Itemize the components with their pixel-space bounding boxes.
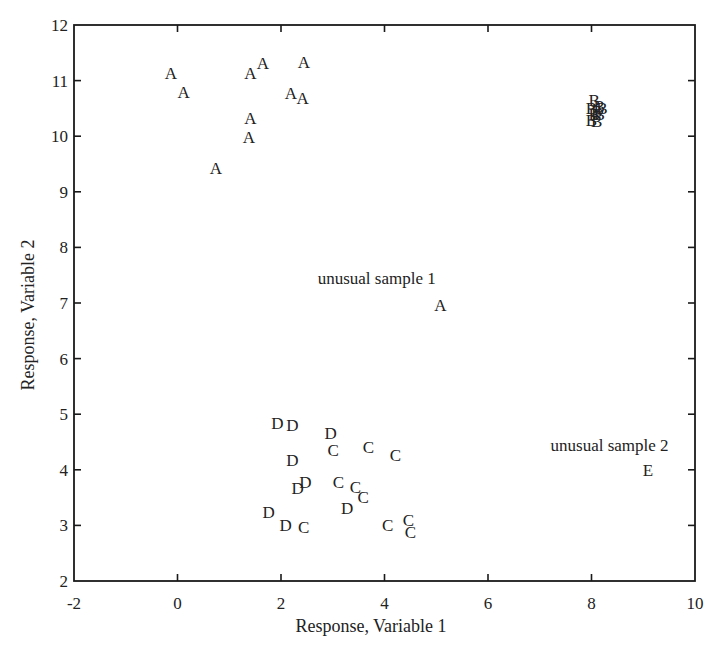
- chart-background: [0, 0, 714, 653]
- data-point-d: D: [271, 414, 283, 433]
- data-point-c: C: [298, 518, 309, 537]
- data-point-a: A: [257, 54, 270, 73]
- data-point-c: C: [358, 488, 369, 507]
- x-tick-label: 4: [380, 594, 389, 613]
- data-point-a: A: [434, 296, 447, 315]
- data-point-a: A: [298, 53, 311, 72]
- y-tick-label: 2: [60, 572, 69, 591]
- data-point-c: C: [405, 523, 416, 542]
- y-tick-label: 7: [60, 294, 69, 313]
- data-point-b: B: [591, 112, 602, 131]
- x-tick-label: 10: [687, 594, 704, 613]
- data-point-d: D: [286, 416, 298, 435]
- x-tick-label: 2: [277, 594, 286, 613]
- data-point-c: C: [382, 516, 393, 535]
- y-tick-label: 5: [60, 405, 69, 424]
- data-point-d: D: [286, 451, 298, 470]
- x-tick-label: 8: [587, 594, 596, 613]
- y-tick-label: 3: [60, 516, 69, 535]
- annotation-label: unusual sample 1: [318, 269, 436, 288]
- y-tick-label: 4: [60, 461, 69, 480]
- data-point-a: A: [244, 64, 257, 83]
- y-tick-label: 11: [52, 72, 68, 91]
- data-point-d: D: [325, 424, 337, 443]
- y-tick-label: 9: [60, 183, 69, 202]
- data-point-d: D: [291, 479, 303, 498]
- scatter-chart: -20246810 23456789101112 Response, Varia…: [0, 0, 714, 653]
- y-tick-label: 10: [51, 127, 68, 146]
- data-point-c: C: [390, 446, 401, 465]
- data-point-c: C: [363, 438, 374, 457]
- data-point-a: A: [243, 128, 256, 147]
- data-point-c: C: [328, 441, 339, 460]
- x-tick-label: 0: [173, 594, 182, 613]
- data-point-a: A: [178, 83, 191, 102]
- data-point-e: E: [643, 461, 653, 480]
- y-axis-title: Response, Variable 2: [18, 239, 38, 390]
- data-point-a: A: [165, 64, 178, 83]
- data-point-d: D: [262, 503, 274, 522]
- data-point-d: D: [341, 499, 353, 518]
- x-tick-label: 6: [484, 594, 493, 613]
- y-tick-label: 12: [51, 16, 68, 35]
- data-point-a: A: [244, 109, 257, 128]
- data-point-a: A: [210, 159, 223, 178]
- data-point-c: C: [333, 473, 344, 492]
- x-axis-title: Response, Variable 1: [295, 616, 446, 636]
- x-tick-label: -2: [67, 594, 81, 613]
- y-tick-label: 8: [60, 238, 69, 257]
- y-tick-label: 6: [60, 350, 69, 369]
- data-point-a: A: [297, 89, 310, 108]
- annotation-label: unusual sample 2: [551, 436, 669, 455]
- data-point-d: D: [280, 516, 292, 535]
